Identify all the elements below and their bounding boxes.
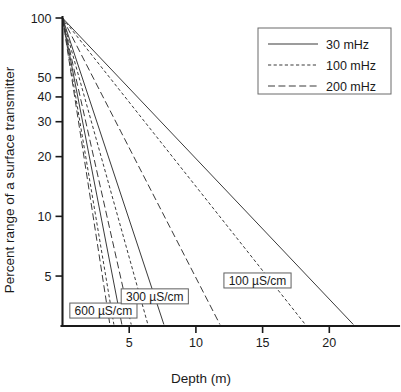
y-tick-label: 50 [38, 71, 52, 85]
y-tick-label: 40 [38, 90, 52, 104]
x-axis-title: Depth (m) [171, 371, 231, 386]
x-tick-label: 20 [322, 336, 336, 350]
y-tick-label: 10 [38, 210, 52, 224]
y-tick-label: 5 [45, 270, 52, 284]
conductivity-annotation: 600 µS/cm [70, 303, 137, 318]
legend-label: 200 mHz [326, 80, 376, 94]
chart-figure: 5101520 10050403020105 Depth (m) Percent… [0, 0, 401, 392]
annotation-label: 600 µS/cm [75, 304, 133, 318]
annotation-label: 300 µS/cm [126, 290, 184, 304]
annotation-label: 100 µS/cm [229, 274, 287, 288]
y-tick-label: 100 [31, 12, 52, 26]
chart-canvas: 5101520 10050403020105 Depth (m) Percent… [0, 0, 401, 392]
conductivity-annotation: 100 µS/cm [224, 273, 291, 288]
x-tick-label: 5 [126, 336, 133, 350]
legend-label: 30 mHz [326, 38, 369, 52]
chart-legend: 30 mHz100 mHz200 mHz [258, 28, 391, 94]
y-tick-label: 20 [38, 150, 52, 164]
x-tick-label: 15 [256, 336, 270, 350]
y-axis-title: Percent range of a surface transmitter [2, 66, 17, 293]
x-tick-label: 10 [189, 336, 203, 350]
conductivity-annotation: 300 µS/cm [121, 289, 188, 304]
legend-label: 100 mHz [326, 59, 376, 73]
y-tick-label: 30 [38, 115, 52, 129]
